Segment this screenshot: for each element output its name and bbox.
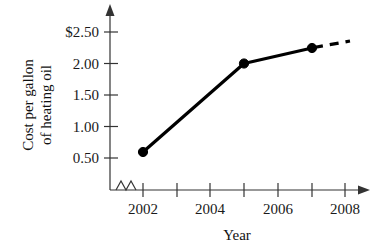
x-tick-label-2004: 2004 — [195, 201, 226, 217]
series-markers — [138, 43, 316, 156]
y-tick-label-0-50: 0.50 — [73, 150, 99, 166]
y-tick-label-1-50: 1.50 — [73, 87, 99, 103]
x-tick-label-2008: 2008 — [330, 201, 360, 217]
y-axis-title-line-1: Cost per gallon — [20, 59, 36, 151]
y-tick-labels: $2.50 2.00 1.50 1.00 0.50 — [65, 24, 99, 166]
y-tick-label-2-50: $2.50 — [65, 24, 99, 40]
y-axis-title: Cost per gallon of heating oil — [20, 59, 54, 151]
y-axis-arrowhead — [106, 4, 115, 16]
y-tick-marks — [104, 32, 118, 158]
data-point-2002 — [138, 147, 147, 156]
x-axis-arrowhead — [358, 186, 370, 195]
heating-oil-cost-line-chart: $2.50 2.00 1.50 1.00 0.50 2002 2004 2006… — [0, 0, 376, 246]
axis-break-symbol — [116, 181, 136, 190]
series-line-solid — [143, 48, 312, 152]
data-point-2007 — [307, 43, 316, 52]
series-line-dashed-projection — [314, 41, 350, 48]
x-axis-title: Year — [223, 227, 251, 243]
x-tick-label-2006: 2006 — [263, 201, 294, 217]
data-point-2005 — [239, 59, 248, 68]
chart-canvas: $2.50 2.00 1.50 1.00 0.50 2002 2004 2006… — [0, 0, 376, 246]
y-tick-label-2-00: 2.00 — [73, 56, 99, 72]
y-axis-title-line-2: of heating oil — [38, 65, 54, 145]
x-tick-labels: 2002 2004 2006 2008 — [128, 201, 360, 217]
x-axis — [110, 186, 370, 195]
x-tick-label-2002: 2002 — [128, 201, 158, 217]
y-tick-label-1-00: 1.00 — [73, 119, 99, 135]
